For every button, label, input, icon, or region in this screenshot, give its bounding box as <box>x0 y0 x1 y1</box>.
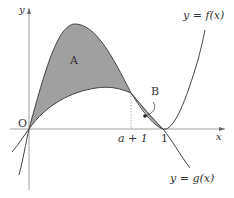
x-axis-label: x <box>216 132 222 142</box>
origin-label: O <box>18 118 27 129</box>
tick-a-plus-1-label: a + 1 <box>118 133 148 144</box>
diagram-canvas <box>0 0 234 198</box>
y-axis-arrow-icon <box>27 8 31 14</box>
curve-f-label: y = f(x) <box>183 10 224 21</box>
curve-g-label: y = g(x) <box>170 173 214 184</box>
b-pointer-dot <box>143 114 147 118</box>
tick-1-label: 1 <box>161 133 168 144</box>
y-axis-label: y <box>19 5 25 15</box>
region-b-label: B <box>151 86 159 97</box>
region-a-label: A <box>70 55 78 66</box>
